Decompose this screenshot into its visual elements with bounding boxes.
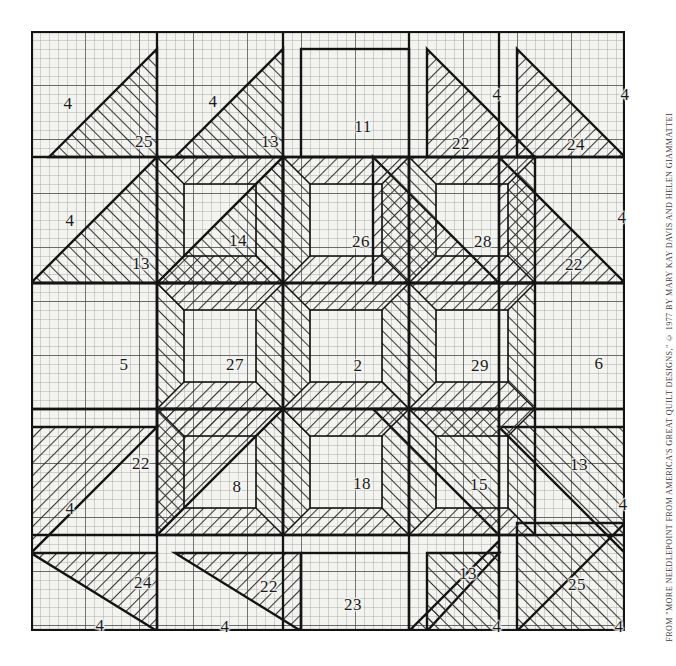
quilt-chart-canvas bbox=[31, 31, 625, 631]
block-bottom-right-corner bbox=[517, 523, 625, 631]
quilt-chart[interactable]: 4 25 4 13 11 4 22 4 24 4 13 14 26 28 22 … bbox=[31, 31, 625, 631]
chart-page: 4 25 4 13 11 4 22 4 24 4 13 14 26 28 22 … bbox=[0, 0, 676, 666]
copyright-credit: FROM "MORE NEEDLEPOINT FROM AMERICA'S GR… bbox=[665, 113, 674, 642]
